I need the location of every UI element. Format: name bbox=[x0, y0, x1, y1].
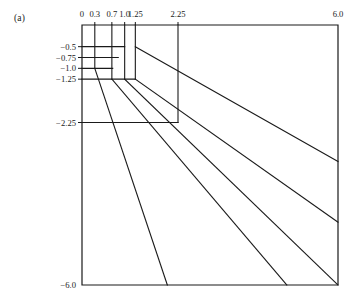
figure-container: (a) 00.30.71.01.252.256.0 −0.5−0.75−1.0−… bbox=[0, 0, 360, 307]
y-tick-label: −1.25 bbox=[34, 75, 76, 84]
plot-line-ray-2-to-bottom-mid bbox=[112, 79, 287, 285]
plot-line-frame bbox=[82, 25, 338, 285]
x-tick-label: 0.3 bbox=[89, 10, 100, 19]
x-tick-label: 1.25 bbox=[128, 10, 143, 19]
plot-line-ray-4-to-right-edge-lower bbox=[135, 79, 338, 222]
plot-line-ray-5-to-right-edge-upper bbox=[135, 47, 338, 162]
y-tick-label: −6.0 bbox=[34, 281, 76, 290]
x-tick-label: 6.0 bbox=[333, 10, 344, 19]
y-tick-label: −0.5 bbox=[34, 42, 76, 51]
y-tick-label: −1.0 bbox=[34, 64, 76, 73]
x-tick-label: 0 bbox=[80, 10, 84, 19]
tick-mark-group bbox=[78, 22, 178, 123]
plot-line-ray-1-to-bottom-left bbox=[95, 68, 168, 285]
x-tick-label: 0.7 bbox=[106, 10, 117, 19]
y-tick-label: −2.25 bbox=[34, 118, 76, 127]
y-tick-label: −0.75 bbox=[34, 53, 76, 62]
plot-line-group bbox=[82, 25, 338, 285]
x-tick-label: 2.25 bbox=[170, 10, 185, 19]
